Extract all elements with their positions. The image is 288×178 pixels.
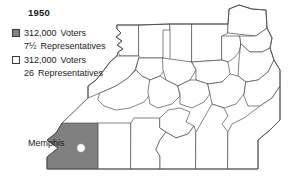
county-region [178, 80, 210, 108]
legend-unshaded-reps-label: Representatives [38, 68, 103, 78]
county-region-group [88, 5, 280, 169]
county-region [98, 123, 131, 169]
legend-unshaded-reps-count: 26 [24, 68, 34, 78]
legend-shaded-voters-count: 312,000 [24, 28, 57, 38]
tennessee-county-map [0, 0, 288, 178]
apportionment-map-figure: 1950 312,000 Voters 7½ Representatives 3… [0, 0, 288, 178]
legend-row-unshaded-representatives: 26 Representatives [24, 68, 103, 78]
empty-square-swatch-icon [12, 56, 20, 64]
county-region [222, 36, 241, 62]
legend-shaded-reps-count: 7½ [24, 41, 37, 51]
county-region [196, 104, 228, 169]
legend-shaded-voters-label: Voters [61, 28, 87, 38]
legend-row-shaded-voters: 312,000 Voters [12, 28, 86, 38]
legend-row-unshaded-voters: 312,000 Voters [12, 55, 86, 65]
legend-row-shaded-representatives: 7½ Representatives [24, 41, 106, 51]
year-label: 1950 [28, 7, 50, 18]
filled-square-swatch-icon [12, 29, 20, 37]
county-region [170, 24, 192, 62]
legend-shaded-reps-label: Representatives [41, 41, 106, 51]
legend-unshaded-voters-count: 312,000 [24, 55, 57, 65]
city-dot-icon [77, 144, 85, 152]
legend-unshaded-voters-label: Voters [61, 55, 87, 65]
city-label-memphis: Memphis [28, 138, 65, 148]
county-region [139, 24, 170, 58]
